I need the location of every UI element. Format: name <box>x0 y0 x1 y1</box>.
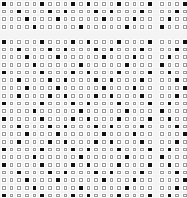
empty-cell <box>54 115 62 123</box>
empty-cell <box>123 15 131 23</box>
filled-cell <box>100 130 108 138</box>
filled-cell <box>173 169 181 177</box>
empty-cell <box>85 23 93 31</box>
empty-cell <box>0 46 8 54</box>
empty-cell <box>77 84 85 92</box>
empty-cell <box>158 0 166 8</box>
empty-cell <box>181 53 187 61</box>
empty-cell <box>31 176 39 184</box>
empty-cell <box>8 123 16 131</box>
empty-cell <box>77 53 85 61</box>
empty-cell <box>181 69 187 77</box>
filled-cell <box>46 46 54 54</box>
empty-cell <box>181 161 187 169</box>
empty-cell <box>23 138 31 146</box>
empty-cell <box>166 130 174 138</box>
filled-cell <box>146 69 154 77</box>
empty-cell <box>8 153 16 161</box>
empty-cell <box>181 76 187 84</box>
empty-cell <box>38 23 46 31</box>
empty-cell <box>62 146 70 154</box>
empty-cell <box>108 61 116 69</box>
empty-cell <box>131 161 139 169</box>
filled-cell <box>173 138 181 146</box>
empty-cell <box>131 69 139 77</box>
empty-cell <box>166 8 174 16</box>
empty-cell <box>92 146 100 154</box>
filled-cell <box>46 76 54 84</box>
filled-cell <box>115 115 123 123</box>
empty-cell <box>138 115 146 123</box>
filled-cell <box>85 192 93 198</box>
empty-cell <box>15 100 23 108</box>
empty-cell <box>123 169 131 177</box>
filled-cell <box>138 46 146 54</box>
empty-cell <box>181 115 187 123</box>
empty-cell <box>23 38 31 46</box>
filled-cell <box>123 107 131 115</box>
empty-cell <box>77 130 85 138</box>
filled-cell <box>181 38 187 46</box>
empty-cell <box>115 76 123 84</box>
empty-cell <box>123 84 131 92</box>
empty-cell <box>181 153 187 161</box>
empty-cell <box>69 138 77 146</box>
filled-cell <box>138 123 146 131</box>
empty-cell <box>62 38 70 46</box>
empty-cell <box>77 192 85 198</box>
empty-cell <box>85 138 93 146</box>
empty-cell <box>46 107 54 115</box>
empty-cell <box>23 0 31 8</box>
empty-cell <box>46 184 54 192</box>
empty-cell <box>146 130 154 138</box>
empty-cell <box>108 115 116 123</box>
empty-cell <box>92 84 100 92</box>
filled-cell <box>62 92 70 100</box>
empty-cell <box>77 138 85 146</box>
empty-cell <box>158 123 166 131</box>
filled-cell <box>115 100 123 108</box>
empty-cell <box>108 176 116 184</box>
filled-cell <box>23 84 31 92</box>
empty-cell <box>115 169 123 177</box>
filled-cell <box>100 15 108 23</box>
empty-cell <box>173 130 181 138</box>
filled-cell <box>123 184 131 192</box>
filled-cell <box>146 161 154 169</box>
empty-cell <box>77 8 85 16</box>
filled-cell <box>62 8 70 16</box>
filled-cell <box>131 15 139 23</box>
empty-cell <box>108 130 116 138</box>
filled-cell <box>173 184 181 192</box>
filled-cell <box>108 138 116 146</box>
empty-cell <box>181 192 187 198</box>
empty-cell <box>131 123 139 131</box>
empty-cell <box>46 176 54 184</box>
filled-cell <box>23 15 31 23</box>
empty-cell <box>173 0 181 8</box>
empty-cell <box>0 15 8 23</box>
empty-cell <box>8 100 16 108</box>
empty-cell <box>138 176 146 184</box>
empty-cell <box>85 123 93 131</box>
filled-cell <box>38 161 46 169</box>
empty-cell <box>54 61 62 69</box>
empty-cell <box>15 38 23 46</box>
empty-cell <box>8 46 16 54</box>
empty-cell <box>131 0 139 8</box>
filled-cell <box>46 123 54 131</box>
empty-cell <box>31 84 39 92</box>
filled-cell <box>62 123 70 131</box>
empty-cell <box>54 100 62 108</box>
empty-cell <box>146 107 154 115</box>
empty-cell <box>115 15 123 23</box>
empty-cell <box>15 130 23 138</box>
empty-cell <box>54 46 62 54</box>
filled-cell <box>158 107 166 115</box>
empty-cell <box>15 61 23 69</box>
filled-cell <box>62 138 70 146</box>
filled-cell <box>115 192 123 198</box>
empty-cell <box>85 92 93 100</box>
empty-cell <box>8 169 16 177</box>
empty-cell <box>92 184 100 192</box>
